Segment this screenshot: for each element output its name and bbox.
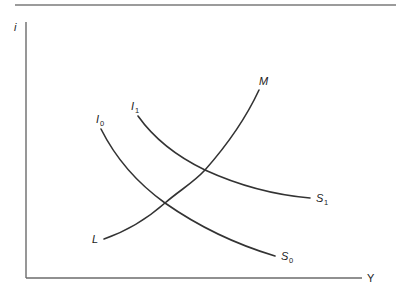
svg-text:1: 1 xyxy=(324,198,328,207)
svg-text:I: I xyxy=(96,113,99,125)
svg-text:S: S xyxy=(281,250,289,262)
svg-text:0: 0 xyxy=(100,119,104,128)
curve-i0-s0 xyxy=(101,129,275,256)
y-axis-label: i xyxy=(14,21,17,33)
svg-text:0: 0 xyxy=(289,256,293,265)
curve-lm xyxy=(104,90,259,239)
label-s0: S 0 xyxy=(281,250,293,265)
curve-i1-s1 xyxy=(138,116,310,198)
label-l: L xyxy=(92,233,98,245)
svg-text:1: 1 xyxy=(135,106,139,115)
is-lm-diagram: i Y I 0 S 0 I 1 S 1 L M xyxy=(0,0,396,292)
x-axis-label: Y xyxy=(367,272,375,284)
label-m: M xyxy=(259,75,269,87)
svg-text:S: S xyxy=(316,192,324,204)
label-i1: I 1 xyxy=(131,100,139,115)
svg-text:I: I xyxy=(131,100,134,112)
label-s1: S 1 xyxy=(316,192,328,207)
label-i0: I 0 xyxy=(96,113,104,128)
